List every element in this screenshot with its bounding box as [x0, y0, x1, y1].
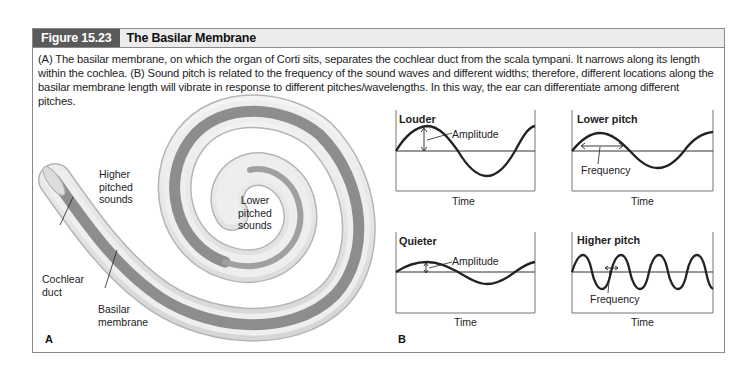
xlabel-time-higher-pitch: Time [631, 316, 654, 329]
plot-title-louder: Louder [399, 113, 436, 126]
annotation-frequency-lower: Frequency [581, 164, 631, 177]
annotation-amplitude-louder: Amplitude [452, 128, 499, 141]
annotation-amplitude-quieter: Amplitude [452, 255, 499, 268]
panel-b-letter: B [398, 333, 406, 345]
plot-title-lower-pitch: Lower pitch [577, 113, 638, 126]
xlabel-time-quieter: Time [454, 316, 477, 329]
wave-plots [0, 0, 755, 369]
xlabel-time-louder: Time [452, 195, 475, 208]
annotation-frequency-higher: Frequency [590, 293, 640, 306]
plot-title-higher-pitch: Higher pitch [577, 234, 640, 247]
xlabel-time-lower-pitch: Time [631, 195, 654, 208]
plot-title-quieter: Quieter [399, 235, 437, 248]
